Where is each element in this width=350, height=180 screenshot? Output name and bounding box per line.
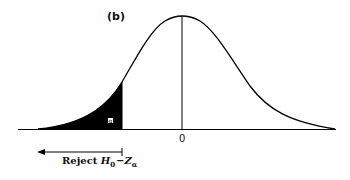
normal-curve-figure [0,0,350,180]
critical-value-label: −Zα [116,155,137,169]
density-curve [38,16,335,129]
reject-h0-label: Reject H0 [62,155,115,169]
reject-text: Reject [62,155,101,166]
reject-arrow-head [37,149,45,155]
alpha-area-label: α [107,117,114,124]
z-symbol: Z [124,155,131,166]
panel-label: (b) [107,10,125,23]
h-subscript: 0 [110,160,115,169]
h-symbol: H [101,155,110,166]
x-tick-zero: 0 [179,133,185,144]
alpha-subscript: α [132,160,137,169]
